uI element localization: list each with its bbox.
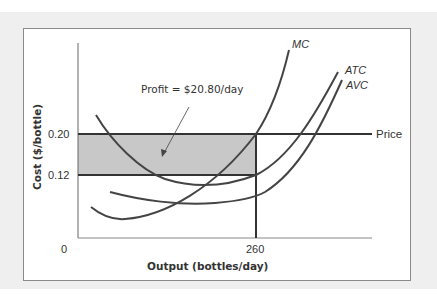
y-tick-012: 0.12 <box>48 169 69 181</box>
price-label: Price <box>376 128 402 140</box>
mc-label: MC <box>292 38 309 50</box>
y-tick-020: 0.20 <box>48 128 69 140</box>
avc-label: AVC <box>345 79 368 91</box>
y-axis-title: Cost ($/bottle) <box>31 104 43 190</box>
cost-curves-chart: 0.20 0.12 0 260 Cost ($/bottle) Output (… <box>0 0 437 301</box>
x-axis-title: Output (bottles/day) <box>147 260 268 272</box>
atc-label: ATC <box>344 64 366 76</box>
profit-region <box>78 134 256 175</box>
x-tick-260: 260 <box>246 243 264 255</box>
origin-tick: 0 <box>61 243 67 255</box>
profit-annotation: Profit = $20.80/day <box>141 83 243 95</box>
